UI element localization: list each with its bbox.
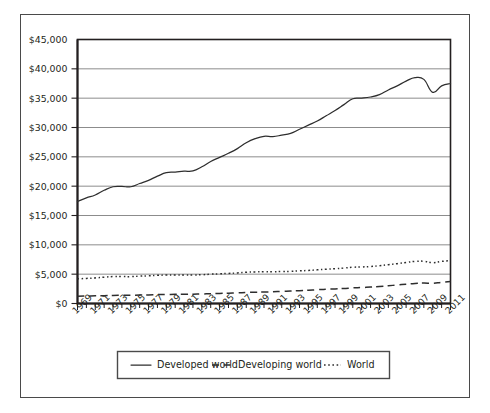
- y-axis-tick-label: $25,000: [29, 151, 68, 162]
- y-axis-tick-label: $45,000: [29, 34, 68, 45]
- y-axis-tick-label: $0: [56, 298, 68, 309]
- legend-label: Developing world: [238, 359, 322, 370]
- y-axis-tick-label: $10,000: [29, 239, 68, 250]
- y-axis-tick-label: $15,000: [29, 210, 68, 221]
- y-axis-tick-label: $5,000: [35, 269, 68, 280]
- y-axis-tick-labels-group: $0$5,000$10,000$15,000$20,000$25,000$30,…: [29, 34, 68, 309]
- figure-root: $0$5,000$10,000$15,000$20,000$25,000$30,…: [0, 0, 490, 413]
- gridlines-group: [78, 69, 451, 274]
- legend: Developed worldDeveloping worldWorld: [118, 352, 390, 379]
- axes-lines: [78, 40, 451, 304]
- series-line-developed-world: [78, 77, 451, 201]
- line-chart: $0$5,000$10,000$15,000$20,000$25,000$30,…: [0, 0, 490, 413]
- y-axis-tick-label: $35,000: [29, 93, 68, 104]
- y-axis-tick-label: $30,000: [29, 122, 68, 133]
- plot-area-border: [78, 40, 451, 304]
- plot-frame: [78, 40, 451, 304]
- y-axis-tick-label: $20,000: [29, 181, 68, 192]
- series-line-world: [78, 261, 451, 279]
- legend-label: World: [347, 359, 375, 370]
- y-axis-tick-label: $40,000: [29, 63, 68, 74]
